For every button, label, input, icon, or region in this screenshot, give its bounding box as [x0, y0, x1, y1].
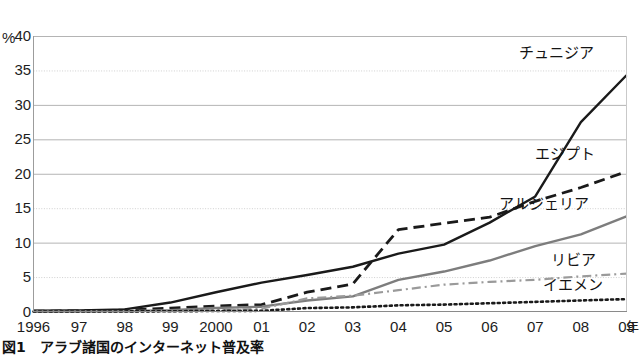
x-tick-label-2007: 07	[527, 318, 544, 336]
x-tick-label-2008: 08	[573, 318, 590, 336]
series-label-4: イエメン	[543, 277, 604, 293]
x-tick-label-2003: 03	[344, 318, 361, 336]
series-line-3	[34, 274, 627, 312]
series-lines	[34, 75, 627, 311]
x-tick-label-1999: 99	[162, 318, 179, 336]
x-axis-tick-labels: 19969798992000010203040506070809	[0, 316, 642, 338]
series-line-0	[34, 75, 627, 311]
x-tick-label-2001: 01	[253, 318, 270, 336]
figure-container: % 0510152025303540 チュニジアエジプトアルジェリアリビアイエメ…	[0, 0, 642, 356]
x-tick-label-2006: 06	[481, 318, 498, 336]
x-axis-unit-label: 年	[626, 318, 639, 336]
series-label-1: エジプト	[535, 146, 596, 162]
series-label-2: アルジェリア	[499, 196, 590, 212]
x-tick-label-1996: 1996	[17, 318, 50, 336]
series-label-0: チュニジア	[519, 45, 595, 61]
x-tick-label-1998: 98	[116, 318, 133, 336]
x-tick-label-2000: 2000	[199, 318, 232, 336]
series-line-2	[34, 216, 627, 311]
series-label-3: リビア	[551, 252, 597, 268]
x-tick-label-2002: 02	[299, 318, 316, 336]
x-tick-label-2004: 04	[390, 318, 407, 336]
x-tick-label-1997: 97	[71, 318, 88, 336]
figure-caption: 図1 アラブ諸国のインターネット普及率	[2, 339, 264, 356]
x-tick-label-2005: 05	[436, 318, 453, 336]
